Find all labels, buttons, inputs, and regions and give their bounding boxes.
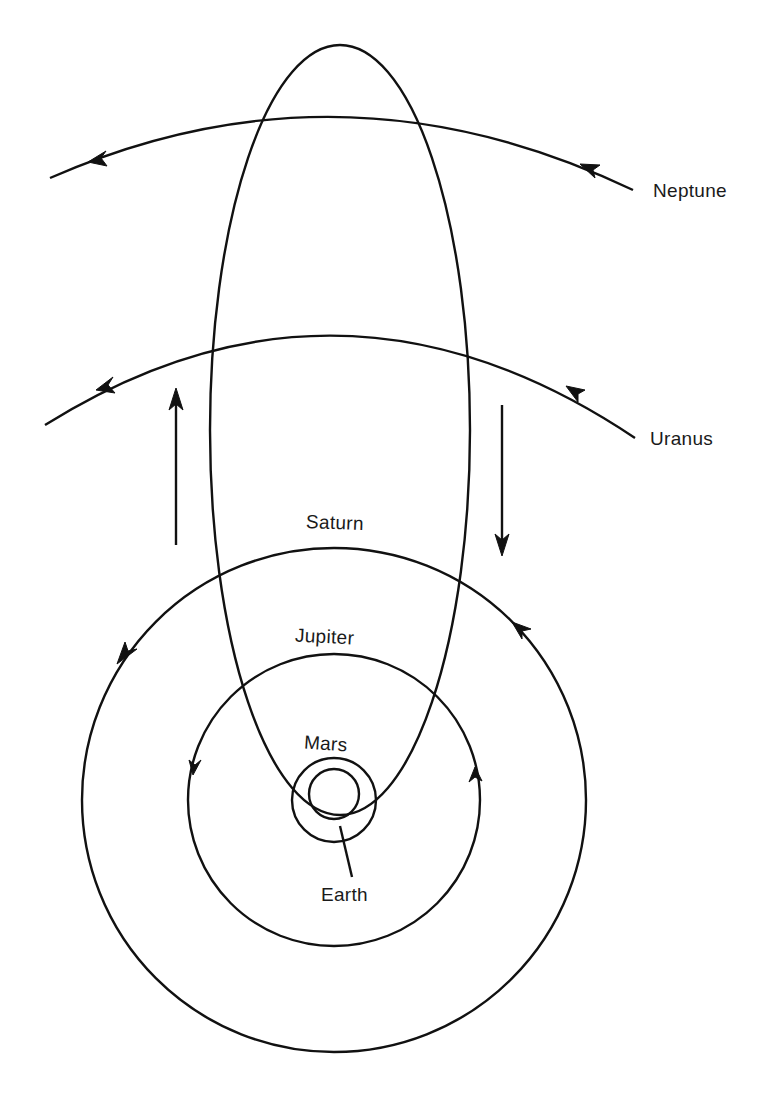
jupiter-label: Jupiter bbox=[294, 624, 354, 649]
neptune-orbit bbox=[50, 117, 633, 190]
earth-label: Earth bbox=[321, 884, 368, 906]
earth-orbit bbox=[309, 769, 359, 819]
neptune-label: Neptune bbox=[653, 180, 727, 202]
neptune-direction-arrow-left bbox=[88, 151, 107, 166]
saturn-direction-arrow-right bbox=[512, 622, 531, 639]
orbit-diagram bbox=[0, 0, 776, 1098]
mars-label: Mars bbox=[303, 732, 348, 757]
uranus-orbit bbox=[45, 336, 635, 438]
uranus-label: Uranus bbox=[650, 428, 713, 450]
saturn-orbit bbox=[82, 548, 586, 1052]
saturn-label: Saturn bbox=[306, 511, 365, 535]
comet-orbit bbox=[210, 45, 470, 815]
jupiter-direction-arrow-right bbox=[469, 767, 482, 782]
uranus-direction-arrow-left bbox=[96, 377, 115, 393]
earth-leader-line bbox=[340, 826, 352, 877]
neptune-direction-arrow-right bbox=[580, 164, 600, 178]
